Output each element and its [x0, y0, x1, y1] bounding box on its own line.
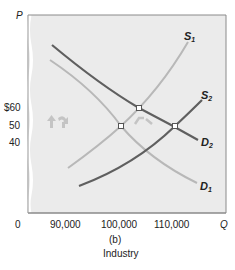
- x-tick-110000: 110,000: [154, 219, 190, 230]
- panel-label: (b): [109, 234, 121, 245]
- y-tick-50: 50: [9, 120, 21, 131]
- x-tick-90000: 90,000: [50, 219, 81, 230]
- equilibrium-d2-s1: [137, 106, 142, 111]
- supply-demand-chart: S1 S2 D2 D1 P $60 50 40 0 90,000 100,000…: [0, 0, 235, 270]
- equilibrium-d1-s1: [119, 124, 124, 129]
- x-axis-label: Q: [220, 219, 228, 230]
- y-tick-40: 40: [9, 137, 21, 148]
- y-tick-60: $60: [4, 102, 21, 113]
- equilibrium-d2-s2: [173, 124, 178, 129]
- y-axis-label: P: [16, 10, 23, 21]
- chart-caption: Industry: [103, 248, 139, 259]
- origin-label: 0: [15, 219, 21, 230]
- x-tick-100000: 100,000: [101, 219, 138, 230]
